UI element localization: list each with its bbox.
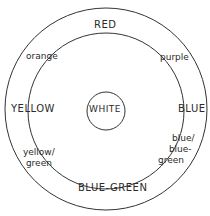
label-blue-blue-green-line2: blue- xyxy=(158,144,195,155)
label-blue-blue-green-line1: blue/ xyxy=(158,133,195,144)
label-purple: purple xyxy=(160,53,189,62)
label-blue-blue-green-line3: green xyxy=(158,155,195,166)
label-yellow: YELLOW xyxy=(11,104,55,114)
label-red: RED xyxy=(94,20,116,30)
label-blue-blue-green: blue/ blue- green xyxy=(158,133,195,166)
label-yellow-green-line1: yellow/ xyxy=(23,147,55,158)
label-orange: orange xyxy=(26,52,58,61)
label-white: WHITE xyxy=(89,105,121,114)
label-blue: BLUE xyxy=(178,104,206,114)
label-blue-green: BLUE-GREEN xyxy=(78,183,147,193)
label-yellow-green: yellow/ green xyxy=(23,147,55,169)
label-yellow-green-line2: green xyxy=(23,158,55,169)
